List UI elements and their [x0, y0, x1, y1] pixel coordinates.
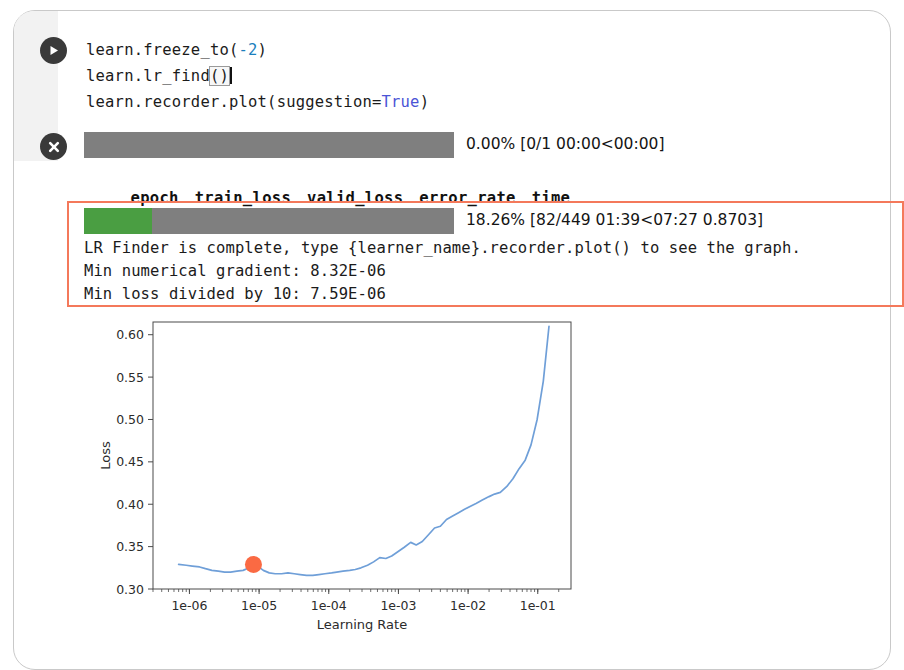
lr-finder-plot: 0.300.350.400.450.500.550.601e-061e-051e…	[94, 311, 594, 651]
code-number-literal: -2	[239, 41, 258, 59]
y-axis-label: Loss	[98, 441, 113, 470]
code-line-2: learn.lr_find()	[86, 67, 232, 85]
notebook-cell: learn.freeze_to(-2) learn.lr_find() lear…	[13, 10, 891, 670]
batch-progress-label: 18.26% [82/449 01:39<07:27 0.8703]	[466, 211, 763, 229]
suggested-lr-marker	[245, 556, 262, 573]
code-line-1: learn.freeze_to(-2)	[86, 41, 267, 59]
code-editor[interactable]: learn.freeze_to(-2) learn.lr_find() lear…	[86, 37, 429, 115]
play-icon	[47, 44, 60, 57]
code-text: ()	[210, 67, 229, 85]
code-text: learn.freeze_to(	[86, 41, 239, 59]
x-tick-label: 1e-06	[171, 598, 207, 613]
x-tick-label: 1e-02	[450, 598, 486, 613]
code-keyword-literal: True	[382, 93, 420, 111]
text-cursor-selection: ()	[210, 63, 232, 89]
y-tick-label: 0.40	[116, 497, 144, 512]
batch-progress-fill	[84, 208, 152, 234]
run-cell-button[interactable]	[40, 37, 67, 64]
code-line-3: learn.recorder.plot(suggestion=True)	[86, 93, 429, 111]
y-tick-label: 0.30	[116, 582, 144, 597]
code-text: learn.recorder.plot(suggestion=	[86, 93, 382, 111]
batch-progress-row: 18.26% [82/449 01:39<07:27 0.8703]	[84, 208, 884, 234]
batch-progress-bar	[84, 208, 454, 234]
plot-frame	[153, 322, 571, 589]
epoch-progress-label: 0.00% [0/1 00:00<00:00]	[466, 135, 664, 153]
x-tick-label: 1e-01	[520, 598, 556, 613]
x-axis-label: Learning Rate	[317, 617, 407, 632]
y-tick-label: 0.50	[116, 412, 144, 427]
x-tick-label: 1e-03	[380, 598, 416, 613]
output-line-3: Min loss divided by 10: 7.59E-06	[84, 285, 386, 303]
code-text: )	[258, 41, 268, 59]
interrupt-cell-button[interactable]	[40, 133, 67, 160]
y-tick-label: 0.45	[116, 454, 144, 469]
output-line-2: Min numerical gradient: 8.32E-06	[84, 262, 386, 280]
code-text: )	[420, 93, 430, 111]
epoch-progress-row: 0.00% [0/1 00:00<00:00]	[84, 132, 884, 158]
text-caret	[230, 67, 232, 84]
lr-finder-output-text: LR Finder is complete, type {learner_nam…	[84, 237, 801, 306]
y-tick-label: 0.35	[116, 539, 144, 554]
y-tick-label: 0.60	[116, 327, 144, 342]
chart-canvas: 0.300.350.400.450.500.550.601e-061e-051e…	[94, 311, 594, 651]
y-tick-label: 0.55	[116, 370, 144, 385]
output-line-1: LR Finder is complete, type {learner_nam…	[84, 239, 801, 257]
x-tick-label: 1e-05	[241, 598, 277, 613]
code-text: learn.lr_find	[86, 67, 210, 85]
epoch-progress-bar	[84, 132, 454, 158]
x-tick-label: 1e-04	[311, 598, 347, 613]
close-icon	[47, 140, 61, 154]
